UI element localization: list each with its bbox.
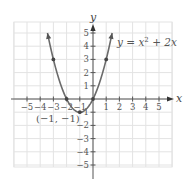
data-point (104, 58, 108, 62)
x-tick-label: 5 (156, 102, 161, 112)
x-axis-label: x (176, 92, 183, 105)
parabola-graph: −5−4−3−2−112345−5−4−3−2−112345 y x y = x… (0, 0, 186, 184)
y-axis-label: y (89, 11, 97, 24)
x-tick-label: −4 (34, 102, 47, 112)
y-tick-label: 2 (84, 68, 89, 78)
y-tick-label: −5 (76, 160, 89, 170)
data-point (65, 97, 69, 101)
y-axis-arrow-icon (90, 24, 95, 31)
x-tick-label: 1 (103, 102, 108, 112)
y-tick-label: 5 (84, 28, 89, 38)
y-tick-label: 4 (84, 41, 89, 51)
data-point (91, 97, 95, 101)
y-tick-label: −4 (76, 147, 89, 157)
y-tick-label: −3 (76, 134, 89, 144)
x-axis-arrow-icon (167, 96, 174, 101)
y-tick-label: 1 (84, 81, 89, 91)
x-tick-label: −3 (47, 102, 60, 112)
x-tick-label: −5 (21, 102, 34, 112)
vertex-label: (−1, −1) (36, 113, 80, 124)
data-point (52, 58, 56, 62)
x-tick-label: 3 (130, 102, 135, 112)
x-tick-label: 4 (143, 102, 148, 112)
x-tick-label: 2 (117, 102, 122, 112)
y-tick-label: 3 (84, 54, 89, 64)
